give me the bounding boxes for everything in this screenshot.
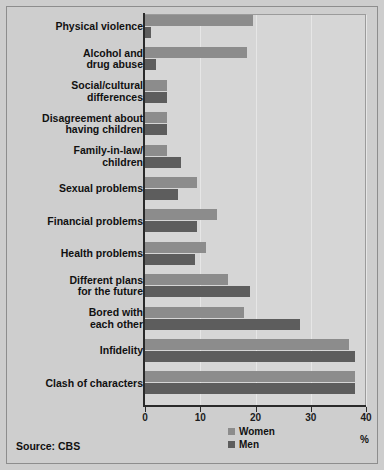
bar-women — [145, 371, 355, 382]
bar-women — [145, 15, 253, 26]
category-label: Health problems — [3, 248, 143, 260]
bar-men — [145, 27, 151, 38]
bar-men — [145, 286, 250, 297]
legend-label-men: Men — [239, 439, 259, 450]
bar-men — [145, 59, 156, 70]
bar-men — [145, 92, 167, 103]
bar-men — [145, 351, 355, 362]
category-label: Infidelity — [3, 345, 143, 357]
bar-women — [145, 274, 228, 285]
x-tick-label: 10 — [195, 412, 206, 423]
x-tick-label: 20 — [250, 412, 261, 423]
category-label: Different plans for the future — [3, 275, 143, 298]
gridline — [366, 15, 367, 406]
category-label: Alcohol and drug abuse — [3, 48, 143, 71]
legend-label-women: Women — [239, 426, 275, 437]
category-label: Family-in-law/ children — [3, 145, 143, 168]
category-label: Physical violence — [3, 21, 143, 33]
source-note: Source: CBS — [16, 440, 80, 452]
category-label: Sexual problems — [3, 183, 143, 195]
bar-men — [145, 221, 197, 232]
x-tick-label: 30 — [305, 412, 316, 423]
legend-item-women: Women — [228, 425, 275, 438]
bar-men — [145, 383, 355, 394]
bar-women — [145, 112, 167, 123]
legend: Women Men — [228, 425, 275, 451]
bar-women — [145, 307, 244, 318]
legend-item-men: Men — [228, 438, 275, 451]
bar-men — [145, 319, 300, 330]
x-axis-line — [143, 405, 366, 407]
bar-women — [145, 80, 167, 91]
bar-women — [145, 145, 167, 156]
x-tick-label: 0 — [142, 412, 148, 423]
category-label: Financial problems — [3, 216, 143, 228]
bar-women — [145, 339, 349, 350]
bar-women — [145, 177, 197, 188]
category-label: Bored with each other — [3, 307, 143, 330]
x-tick-label: 40 — [360, 412, 371, 423]
bar-men — [145, 189, 178, 200]
bar-men — [145, 254, 195, 265]
category-label: Clash of characters — [3, 378, 143, 390]
legend-swatch-men — [228, 441, 235, 448]
axis-unit-label: % — [360, 434, 369, 445]
legend-swatch-women — [228, 428, 235, 435]
bar-women — [145, 242, 206, 253]
bar-men — [145, 157, 181, 168]
chart-figure: Physical violenceAlcohol and drug abuseS… — [0, 0, 384, 470]
bar-men — [145, 124, 167, 135]
bar-women — [145, 47, 247, 58]
category-label: Disagreement about having children — [3, 113, 143, 136]
bar-women — [145, 209, 217, 220]
category-label: Social/cultural differences — [3, 80, 143, 103]
